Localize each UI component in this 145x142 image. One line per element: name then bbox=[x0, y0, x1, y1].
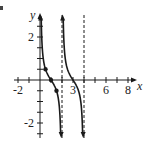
data-point bbox=[43, 67, 47, 71]
arrow-down-icon bbox=[59, 132, 64, 138]
x-tick-label: 8 bbox=[125, 83, 131, 97]
asymptotes bbox=[62, 15, 84, 138]
x-tick-label: 6 bbox=[103, 83, 109, 97]
x-axis-label: x bbox=[136, 79, 143, 93]
cotangent-graph: -23682-2xy bbox=[0, 0, 145, 142]
curve-branch bbox=[41, 18, 60, 133]
tick-labels: -23682-2xy bbox=[13, 8, 143, 130]
y-tick-label: 2 bbox=[28, 30, 34, 44]
data-point bbox=[54, 89, 58, 93]
arrow-up-icon bbox=[60, 15, 65, 21]
data-point bbox=[49, 78, 53, 82]
x-tick-label: 3 bbox=[70, 83, 76, 97]
x-tick-label: -2 bbox=[13, 83, 23, 97]
curve-branch bbox=[63, 18, 82, 133]
y-tick-label: -2 bbox=[24, 116, 34, 130]
arrow-down-icon bbox=[81, 132, 86, 138]
y-axis-label: y bbox=[29, 8, 36, 22]
